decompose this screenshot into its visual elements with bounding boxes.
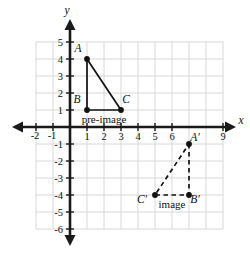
y-axis-label: y	[63, 4, 70, 17]
series-image: A′B′C′image	[137, 131, 200, 210]
x-tick-label: -2	[31, 130, 40, 141]
y-tick-label: 1	[58, 105, 63, 116]
y-tick-label: -3	[54, 173, 63, 184]
x-axis-arrow-left	[12, 122, 23, 133]
series-caption: pre-image	[82, 113, 127, 125]
y-tick-label: -1	[54, 139, 63, 150]
x-tick-label: 6	[169, 131, 174, 142]
y-tick-label: 5	[58, 37, 63, 48]
y-tick-label: 4	[58, 54, 64, 65]
y-tick-label: 2	[58, 88, 63, 99]
vertex-label: B	[73, 93, 80, 105]
vertex-label: C′	[137, 193, 148, 205]
vertex-label: B′	[190, 193, 200, 205]
series-pre-image: ABCpre-image	[73, 42, 130, 125]
y-axis-arrow-bottom	[65, 235, 76, 246]
x-tick-label: 1	[84, 131, 89, 142]
x-axis-label: x	[237, 114, 244, 126]
vertex-point	[84, 56, 90, 62]
x-tick-label: 2	[101, 131, 106, 142]
x-tick-label: 5	[152, 131, 157, 142]
y-tick-label: -4	[54, 190, 63, 201]
vertex-label: A′	[189, 131, 200, 143]
y-tick-label: -5	[54, 207, 63, 218]
vertex-point	[152, 192, 158, 198]
y-tick-label: -6	[54, 224, 63, 235]
vertex-label: A	[73, 42, 82, 54]
y-tick-label: 3	[58, 71, 63, 82]
x-tick-label: 4	[135, 131, 141, 142]
series-caption: image	[159, 198, 186, 210]
y-tick-label: -2	[54, 156, 63, 167]
x-tick-label: 9	[220, 131, 225, 142]
y-axis-arrow-top	[65, 19, 76, 30]
vertex-label: C	[122, 93, 130, 105]
coordinate-plot: -2-1123456954321-1-2-3-4-5-6xyABCpre-ima…	[0, 0, 250, 255]
coordinate-plane-figure: -2-1123456954321-1-2-3-4-5-6xyABCpre-ima…	[0, 0, 250, 255]
x-tick-label: 3	[118, 131, 123, 142]
x-axis-arrow-right	[225, 122, 236, 133]
